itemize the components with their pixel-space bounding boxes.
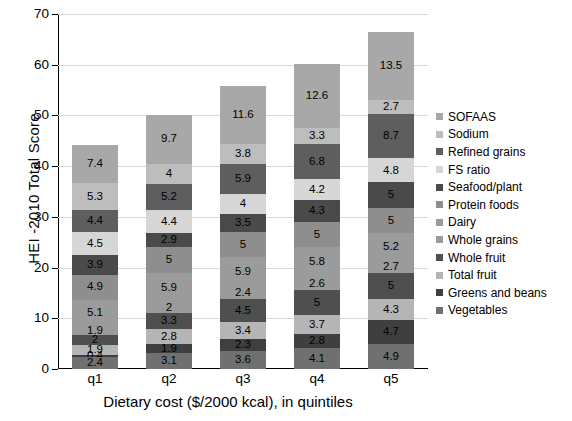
bar-segment[interactable]: 4.4 bbox=[146, 210, 192, 232]
bar-segment[interactable]: 1.9 bbox=[146, 344, 192, 354]
bar-segment[interactable]: 6.8 bbox=[294, 144, 340, 178]
bar-segment[interactable]: 3.5 bbox=[220, 214, 266, 232]
legend-item[interactable]: Refined grains bbox=[436, 143, 572, 161]
bar-segment[interactable]: 13.5 bbox=[368, 32, 414, 100]
bar-segment[interactable]: 5.9 bbox=[146, 273, 192, 303]
bar-segment[interactable]: 5.2 bbox=[146, 184, 192, 210]
legend-swatch-icon bbox=[436, 131, 443, 138]
bar-segment[interactable]: 4.8 bbox=[368, 158, 414, 182]
legend-item[interactable]: Whole grains bbox=[436, 231, 572, 249]
y-tick-label: 0 bbox=[41, 362, 49, 376]
bar-segment[interactable]: 4.7 bbox=[368, 320, 414, 344]
legend-swatch-icon bbox=[436, 113, 443, 120]
bar-segment[interactable]: 12.6 bbox=[294, 64, 340, 128]
bar-segment[interactable]: 4.5 bbox=[72, 232, 118, 255]
bar-segment[interactable]: 2.6 bbox=[294, 277, 340, 290]
x-tick-label-q1: q1 bbox=[72, 371, 118, 386]
bar-segment[interactable]: 2.3 bbox=[220, 339, 266, 351]
legend-item[interactable]: FS ratio bbox=[436, 161, 572, 179]
bar-segment[interactable]: 5 bbox=[220, 232, 266, 257]
bar-series-group: 7.45.34.44.53.94.95.11.921.90.42.49.745.… bbox=[58, 14, 428, 369]
bar-segment[interactable]: 4.5 bbox=[220, 299, 266, 322]
legend-swatch-icon bbox=[436, 219, 443, 226]
bar-segment[interactable]: 3.3 bbox=[146, 313, 192, 330]
legend-label: Dairy bbox=[448, 216, 476, 228]
y-tick-label: 70 bbox=[34, 7, 49, 21]
legend-item[interactable]: Total fruit bbox=[436, 266, 572, 284]
bar-segment[interactable]: 5 bbox=[368, 182, 414, 207]
legend-swatch-icon bbox=[436, 148, 443, 155]
legend-item[interactable]: Greens and beans bbox=[436, 284, 572, 302]
bar-segment[interactable]: 4 bbox=[220, 194, 266, 214]
legend-label: Total fruit bbox=[448, 269, 497, 281]
bar-segment[interactable]: 4.9 bbox=[72, 275, 118, 300]
bar-segment[interactable]: 4.9 bbox=[368, 344, 414, 369]
x-tick-slot: q5 bbox=[368, 371, 414, 386]
bar-segment[interactable]: 3.6 bbox=[220, 351, 266, 369]
x-tick-label-q5: q5 bbox=[368, 371, 414, 386]
legend-swatch-icon bbox=[436, 201, 443, 208]
bar-segment[interactable]: 11.6 bbox=[220, 86, 266, 145]
bar-segment[interactable]: 3.8 bbox=[220, 144, 266, 163]
legend-swatch-icon bbox=[436, 236, 443, 243]
chart-canvas: HEI -2010 Total Score 010203040506070 7.… bbox=[0, 0, 572, 421]
stacked-bar-q5[interactable]: 13.52.78.74.8555.22.754.34.74.9 bbox=[368, 14, 414, 369]
legend-item[interactable]: SOFAAS bbox=[436, 108, 572, 126]
bar-segment[interactable]: 4.4 bbox=[72, 210, 118, 232]
bar-segment[interactable]: 5.1 bbox=[72, 300, 118, 326]
legend-swatch-icon bbox=[436, 272, 443, 279]
stacked-bar-q1[interactable]: 7.45.34.44.53.94.95.11.921.90.42.4 bbox=[72, 14, 118, 369]
legend-label: Whole fruit bbox=[448, 252, 505, 264]
bar-segment[interactable]: 5.3 bbox=[72, 183, 118, 210]
bar-segment[interactable]: 3.7 bbox=[294, 315, 340, 334]
bar-segment[interactable]: 9.7 bbox=[146, 115, 192, 164]
x-tick-label-q3: q3 bbox=[220, 371, 266, 386]
bar-segment[interactable]: 3.1 bbox=[146, 353, 192, 369]
legend-item[interactable]: Dairy bbox=[436, 214, 572, 232]
stacked-bar-q2[interactable]: 9.745.24.42.955.923.32.81.93.1 bbox=[146, 14, 192, 369]
legend-label: Protein foods bbox=[448, 199, 519, 211]
bar-segment[interactable]: 3.3 bbox=[294, 128, 340, 145]
bar-segment[interactable]: 5 bbox=[294, 222, 340, 247]
bar-segment[interactable]: 3.4 bbox=[220, 322, 266, 339]
x-tick-slot: q2 bbox=[146, 371, 192, 386]
x-axis-title: Dietary cost ($/2000 kcal), in quintiles bbox=[0, 393, 456, 410]
legend-item[interactable]: Vegetables bbox=[436, 302, 572, 320]
x-tick-slot: q3 bbox=[220, 371, 266, 386]
bar-segment[interactable]: 5.9 bbox=[220, 257, 266, 287]
legend-item[interactable]: Protein foods bbox=[436, 196, 572, 214]
bar-segment[interactable]: 5 bbox=[294, 290, 340, 315]
bar-segment[interactable]: 3.9 bbox=[72, 255, 118, 275]
bar-segment[interactable]: 2 bbox=[146, 303, 192, 313]
bar-segment[interactable]: 5.8 bbox=[294, 247, 340, 276]
bar-segment[interactable]: 4.1 bbox=[294, 348, 340, 369]
bar-segment[interactable]: 4.2 bbox=[294, 179, 340, 200]
y-tick-label: 40 bbox=[34, 159, 49, 173]
y-tick-label: 30 bbox=[34, 210, 49, 224]
bar-segment[interactable]: 7.4 bbox=[72, 145, 118, 183]
legend-label: Whole grains bbox=[448, 234, 518, 246]
bar-segment[interactable]: 4.3 bbox=[294, 200, 340, 222]
bar-segment[interactable]: 5 bbox=[368, 208, 414, 233]
legend-label: Seafood/plant bbox=[448, 181, 522, 193]
x-tick-label-q2: q2 bbox=[146, 371, 192, 386]
stacked-bar-q3[interactable]: 11.63.85.943.555.92.44.53.42.33.6 bbox=[220, 14, 266, 369]
bar-segment[interactable]: 5.9 bbox=[220, 164, 266, 194]
legend-item[interactable]: Sodium bbox=[436, 126, 572, 144]
legend-item[interactable]: Whole fruit bbox=[436, 249, 572, 267]
stacked-bar-q4[interactable]: 12.63.36.84.24.355.82.653.72.84.1 bbox=[294, 14, 340, 369]
bar-segment[interactable]: 5 bbox=[146, 247, 192, 272]
bar-segment[interactable]: 2.7 bbox=[368, 260, 414, 274]
bar-segment[interactable]: 8.7 bbox=[368, 114, 414, 158]
legend-label: SOFAAS bbox=[448, 111, 496, 123]
bar-segment[interactable]: 4 bbox=[146, 164, 192, 184]
bar-segment[interactable]: 4.3 bbox=[368, 299, 414, 321]
bar-segment[interactable]: 2.8 bbox=[294, 334, 340, 348]
bar-segment[interactable]: 5 bbox=[368, 273, 414, 298]
bar-segment[interactable]: 2.4 bbox=[220, 287, 266, 299]
legend-item[interactable]: Seafood/plant bbox=[436, 178, 572, 196]
bar-segment[interactable]: 2.4 bbox=[72, 357, 118, 369]
bar-segment[interactable]: 2.7 bbox=[368, 100, 414, 114]
bar-segment[interactable]: 5.2 bbox=[368, 233, 414, 259]
bar-segment[interactable]: 2.9 bbox=[146, 233, 192, 248]
